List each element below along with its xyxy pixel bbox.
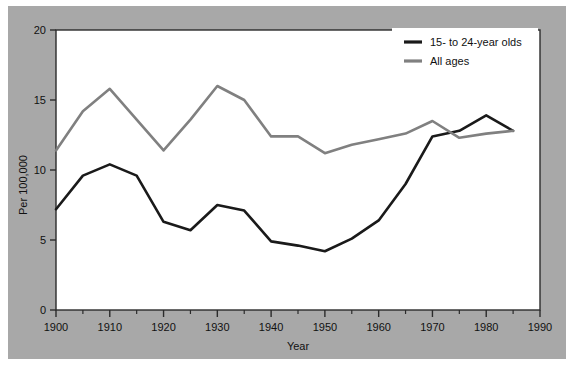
legend-label: 15- to 24-year olds: [430, 36, 522, 48]
x-tick-label: 1970: [420, 321, 444, 333]
x-tick-label: 1910: [98, 321, 122, 333]
x-tick-label: 1960: [366, 321, 390, 333]
chart-legend: 15- to 24-year oldsAll ages: [392, 28, 538, 72]
x-tick-label: 1950: [313, 321, 337, 333]
x-tick-label: 1980: [474, 321, 498, 333]
y-tick-label: 5: [40, 234, 46, 246]
y-tick-label: 10: [34, 164, 46, 176]
y-tick-label: 20: [34, 24, 46, 36]
x-tick-label: 1920: [151, 321, 175, 333]
y-axis-tick-labels: 05101520: [34, 24, 46, 316]
chart-figure: 05101520 1900191019201930194019501960197…: [0, 0, 575, 372]
x-tick-label: 1990: [528, 321, 552, 333]
line-chart: 05101520 1900191019201930194019501960197…: [0, 0, 575, 372]
y-tick-label: 0: [40, 304, 46, 316]
y-axis-title: Per 100,000: [17, 155, 29, 215]
y-tick-label: 15: [34, 94, 46, 106]
legend-label: All ages: [430, 55, 470, 67]
x-axis-tick-labels: 1900191019201930194019501960197019801990: [44, 321, 552, 333]
x-axis-title: Year: [287, 340, 310, 352]
x-tick-label: 1900: [44, 321, 68, 333]
x-tick-label: 1930: [205, 321, 229, 333]
y-axis-ticks: [50, 30, 56, 310]
x-tick-label: 1940: [259, 321, 283, 333]
